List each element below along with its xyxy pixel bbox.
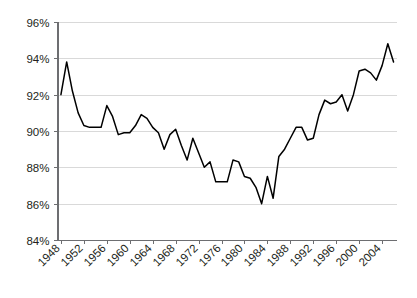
line-chart: 84%86%88%90%92%94%96% 194819521956196019… bbox=[0, 0, 417, 298]
chart-canvas: 84%86%88%90%92%94%96% 194819521956196019… bbox=[0, 0, 417, 298]
x-axis-tick-label: 1956 bbox=[81, 242, 108, 269]
x-axis-tick-label: 1980 bbox=[218, 242, 245, 269]
x-axis-tick-label: 1988 bbox=[264, 242, 291, 269]
y-axis-tick-label: 92% bbox=[26, 90, 49, 102]
y-axis-tick-label: 96% bbox=[26, 17, 49, 29]
y-axis-tick-label: 84% bbox=[26, 235, 49, 247]
y-axis-tick-label: 94% bbox=[26, 53, 49, 65]
x-axis-tick-label: 1960 bbox=[104, 242, 131, 269]
x-axis-tick-label: 1996 bbox=[310, 242, 337, 269]
gridlines-group bbox=[58, 23, 398, 241]
x-axis-tick-label: 1992 bbox=[287, 242, 314, 269]
data-series-line bbox=[61, 44, 394, 204]
y-axis-tick-label: 90% bbox=[26, 126, 49, 138]
x-axis-tick-label: 1952 bbox=[58, 242, 85, 269]
x-axis-tick-label: 1984 bbox=[241, 242, 268, 269]
y-tick-marks-group bbox=[54, 23, 58, 241]
y-axis-tick-label: 86% bbox=[26, 199, 49, 211]
x-axis-tick-label: 2004 bbox=[356, 242, 383, 269]
x-axis-tick-label: 1972 bbox=[173, 242, 200, 269]
y-axis-tick-label: 88% bbox=[26, 162, 49, 174]
x-axis-tick-label: 2000 bbox=[333, 242, 360, 269]
x-axis-tick-label: 1976 bbox=[196, 242, 223, 269]
y-axis-tick-labels: 84%86%88%90%92%94%96% bbox=[26, 17, 49, 247]
x-axis-tick-label: 1968 bbox=[150, 242, 177, 269]
x-axis-tick-labels: 1948195219561960196419681972197619801984… bbox=[35, 242, 383, 269]
x-axis-tick-label: 1964 bbox=[127, 242, 154, 269]
